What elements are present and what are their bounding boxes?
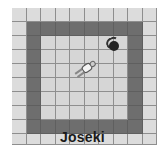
floor-cell — [70, 50, 85, 64]
wall-cell — [128, 22, 143, 36]
game-title: Joseki — [0, 129, 165, 145]
wall-cell — [99, 22, 114, 36]
floor-cell — [70, 78, 85, 92]
wall-cell — [128, 64, 143, 78]
wall-cell — [128, 36, 143, 50]
floor-cell — [70, 106, 85, 120]
outer-cell — [27, 8, 42, 22]
floor-cell — [99, 106, 114, 120]
floor-cell — [56, 50, 71, 64]
outer-cell — [143, 78, 158, 92]
outer-cell — [12, 92, 27, 106]
floor-cell — [56, 106, 71, 120]
floor-cell — [114, 64, 129, 78]
floor-cell — [56, 36, 71, 50]
outer-cell — [143, 92, 158, 106]
floor-cell — [56, 78, 71, 92]
wall-cell — [128, 78, 143, 92]
outer-cell — [128, 8, 143, 22]
floor-cell — [41, 106, 56, 120]
floor-cell — [114, 92, 129, 106]
outer-cell — [12, 36, 27, 50]
floor-cell — [85, 92, 100, 106]
outer-cell — [12, 8, 27, 22]
wall-cell — [56, 22, 71, 36]
floor-cell — [56, 92, 71, 106]
wall-cell — [114, 22, 129, 36]
outer-cell — [143, 64, 158, 78]
outer-cell — [143, 8, 158, 22]
outer-cell — [41, 8, 56, 22]
wall-cell — [27, 64, 42, 78]
game-board — [12, 8, 157, 145]
floor-cell — [41, 92, 56, 106]
floor-cell — [99, 64, 114, 78]
floor-cell — [41, 64, 56, 78]
wall-cell — [41, 22, 56, 36]
outer-cell — [12, 106, 27, 120]
ball-icon — [109, 41, 119, 51]
wall-cell — [27, 106, 42, 120]
floor-cell — [70, 36, 85, 50]
outer-cell — [114, 8, 129, 22]
floor-cell — [114, 106, 129, 120]
floor-cell — [70, 92, 85, 106]
outer-cell — [56, 8, 71, 22]
floor-cell — [85, 36, 100, 50]
wall-cell — [27, 36, 42, 50]
outer-cell — [99, 8, 114, 22]
wall-cell — [85, 22, 100, 36]
floor-cell — [99, 92, 114, 106]
outer-cell — [143, 22, 158, 36]
wall-cell — [70, 22, 85, 36]
floor-cell — [99, 78, 114, 92]
wall-cell — [27, 50, 42, 64]
outer-cell — [12, 50, 27, 64]
outer-cell — [143, 106, 158, 120]
floor-cell — [56, 64, 71, 78]
floor-cell — [99, 50, 114, 64]
wall-cell — [27, 92, 42, 106]
outer-cell — [12, 64, 27, 78]
wall-cell — [27, 22, 42, 36]
floor-cell — [41, 78, 56, 92]
floor-cell — [41, 50, 56, 64]
wall-cell — [128, 92, 143, 106]
outer-cell — [143, 50, 158, 64]
floor-cell — [114, 78, 129, 92]
floor-cell — [85, 106, 100, 120]
outer-cell — [143, 36, 158, 50]
wall-cell — [128, 106, 143, 120]
outer-cell — [12, 22, 27, 36]
outer-cell — [12, 78, 27, 92]
outer-cell — [70, 8, 85, 22]
floor-cell — [41, 36, 56, 50]
floor-cell — [85, 78, 100, 92]
wall-cell — [27, 78, 42, 92]
wall-cell — [128, 50, 143, 64]
floor-cell — [114, 50, 129, 64]
outer-cell — [85, 8, 100, 22]
